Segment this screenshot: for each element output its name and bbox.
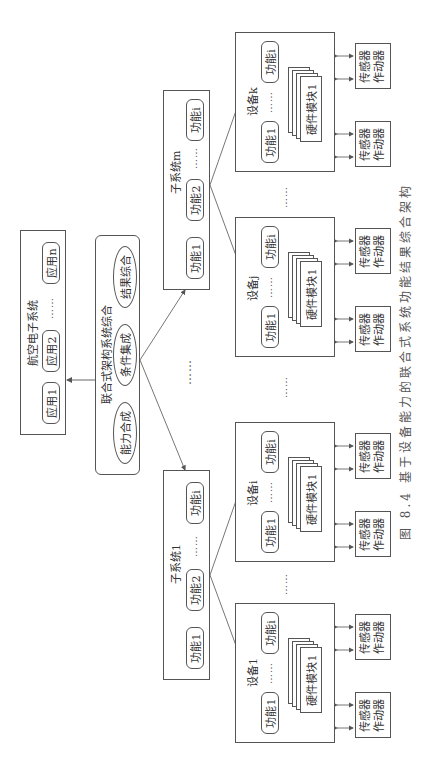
app-n: 应用n xyxy=(42,242,60,284)
actuator-label: 作动器 xyxy=(373,440,387,473)
actuator-label: 作动器 xyxy=(373,699,387,732)
device-i-ellipsis: …… xyxy=(263,481,274,503)
device-i-title: 设备i xyxy=(244,480,260,506)
sensor-label: 传感器 xyxy=(359,440,373,473)
subsystem-ellipsis: …… xyxy=(180,359,194,385)
device-1-ellipsis: …… xyxy=(263,662,274,684)
device-k-title: 设备k xyxy=(244,87,260,116)
sensor-label: 传感器 xyxy=(359,621,373,654)
device-k-hardware-module: 硬件模块1 xyxy=(300,76,322,142)
integration-title: 联合式架构系统综合 xyxy=(98,305,114,404)
sensor-actuator-dk-a: 传感器作动器 xyxy=(355,121,391,167)
device-j-hardware-module: 硬件模块1 xyxy=(300,261,322,327)
device-ellipsis-right: …… xyxy=(278,186,289,208)
device-ellipsis-middle: …… xyxy=(278,376,289,398)
device-j-function-1: 功能1 xyxy=(261,306,279,348)
sensor-actuator-dk-b: 传感器作动器 xyxy=(355,43,391,89)
device-ellipsis-left: …… xyxy=(278,573,289,595)
subsystem-m-ellipsis: …… xyxy=(188,147,199,169)
device-j-title: 设备j xyxy=(244,276,260,301)
subsystem-1-title: 子系统1 xyxy=(167,544,183,584)
actuator-label: 作动器 xyxy=(373,235,387,268)
sensor-label: 传感器 xyxy=(359,699,373,732)
sensor-actuator-dj-b: 传感器作动器 xyxy=(355,228,391,274)
actuator-label: 作动器 xyxy=(373,621,387,654)
sensor-actuator-d1-b: 传感器作动器 xyxy=(355,614,391,660)
app-ellipsis: …… xyxy=(44,297,55,319)
avionics-title: 航空电子系统 xyxy=(24,300,40,366)
sensor-actuator-di-a: 传感器作动器 xyxy=(355,511,391,557)
device-1-hardware-module: 硬件模块1 xyxy=(300,647,322,713)
device-j-function-i: 功能i xyxy=(261,226,279,268)
result-synthesis: 结果综合 xyxy=(113,246,137,308)
app-2: 应用2 xyxy=(42,330,60,372)
diagram-canvas: 航空电子系统 应用1 应用2 …… 应用n 联合式架构系统综合 能力合成 条件集… xyxy=(0,0,423,760)
device-1-title: 设备1 xyxy=(244,658,260,687)
integration-box: 联合式架构系统综合 能力合成 条件集成 结果综合 xyxy=(95,235,140,475)
actuator-label: 作动器 xyxy=(373,313,387,346)
sensor-label: 传感器 xyxy=(359,128,373,161)
figure-caption: 图 8.4 基于设备能力的联合式系统功能结果综合架构 xyxy=(396,183,413,540)
device-k-ellipsis: …… xyxy=(263,91,274,113)
device-1-function-1: 功能1 xyxy=(261,692,279,734)
subsystem-m-function-1: 功能1 xyxy=(186,237,204,279)
condition-integration: 条件集成 xyxy=(113,324,137,386)
avionics-system-box: 航空电子系统 应用1 应用2 …… 应用n xyxy=(20,230,66,435)
device-1-box: 设备1 功能1 …… 功能i 硬件模块1 xyxy=(235,603,335,743)
subsystem-1-box: 子系统1 功能1 功能2 …… 功能i xyxy=(163,470,210,680)
device-j-ellipsis: …… xyxy=(263,276,274,298)
subsystem-m-function-2: 功能2 xyxy=(186,179,204,221)
subsystem-m-box: 子系统m 功能1 功能2 …… 功能i xyxy=(163,90,210,290)
sensor-actuator-di-b: 传感器作动器 xyxy=(355,433,391,479)
actuator-label: 作动器 xyxy=(373,128,387,161)
actuator-label: 作动器 xyxy=(373,50,387,83)
app-1: 应用1 xyxy=(42,382,60,424)
subsystem-1-ellipsis: …… xyxy=(188,535,199,557)
device-i-function-i: 功能i xyxy=(261,431,279,473)
subsystem-1-function-i: 功能i xyxy=(186,482,204,524)
subsystem-m-function-i: 功能i xyxy=(186,99,204,141)
actuator-label: 作动器 xyxy=(373,518,387,551)
sensor-actuator-dj-a: 传感器作动器 xyxy=(355,306,391,352)
device-k-function-1: 功能1 xyxy=(261,121,279,163)
device-i-hardware-module: 硬件模块1 xyxy=(300,466,322,532)
sensor-actuator-d1-a: 传感器作动器 xyxy=(355,692,391,738)
sensor-label: 传感器 xyxy=(359,50,373,83)
device-k-box: 设备k 功能1 …… 功能i 硬件模块1 xyxy=(235,32,335,172)
device-i-box: 设备i 功能1 …… 功能i 硬件模块1 xyxy=(235,422,335,562)
sensor-label: 传感器 xyxy=(359,235,373,268)
device-i-function-1: 功能1 xyxy=(261,511,279,553)
capability-synthesis: 能力合成 xyxy=(113,402,137,464)
device-j-box: 设备j 功能1 …… 功能i 硬件模块1 xyxy=(235,217,335,357)
subsystem-1-function-1: 功能1 xyxy=(186,627,204,669)
device-1-function-i: 功能i xyxy=(261,612,279,654)
sensor-label: 传感器 xyxy=(359,313,373,346)
device-k-function-i: 功能i xyxy=(261,41,279,83)
sensor-label: 传感器 xyxy=(359,518,373,551)
subsystem-1-function-2: 功能2 xyxy=(186,569,204,611)
subsystem-m-title: 子系统m xyxy=(167,151,183,194)
